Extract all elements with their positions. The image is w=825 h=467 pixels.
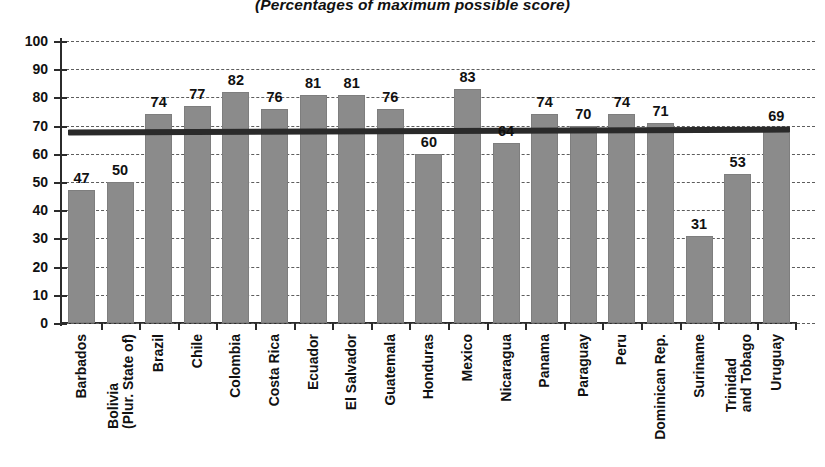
x-category-label: Panama (537, 334, 552, 388)
y-tick-label-40: 40 (4, 202, 48, 218)
bar-value-label: 76 (266, 89, 282, 105)
bar-value-label: 74 (151, 94, 167, 110)
x-category-label: Dominican Rep. (653, 334, 668, 440)
x-category-label: Costa Rica (267, 334, 282, 406)
y-tick-mark-80 (54, 97, 67, 99)
x-category-label: Honduras (421, 334, 436, 399)
x-category-label: Bolivia(Plur. State of) (106, 334, 136, 429)
bar (531, 114, 558, 323)
x-category-label-line: Costa Rica (267, 334, 282, 406)
x-tick-mark (602, 322, 604, 330)
bar (724, 174, 751, 323)
x-category-label: Chile (190, 334, 205, 368)
bar (763, 128, 790, 323)
bar (454, 89, 481, 323)
x-category-label-line: Mexico (460, 334, 475, 381)
bar-value-label: 81 (305, 75, 321, 91)
x-category-label: Nicaragua (499, 334, 514, 402)
x-tick-mark (255, 322, 257, 330)
x-category-label-line: Ecuador (306, 334, 321, 390)
y-tick-mark-30 (54, 238, 67, 240)
x-category-label-line: Bolivia (106, 334, 121, 429)
bar (608, 114, 635, 323)
x-category-label-line: Guatemala (383, 334, 398, 406)
gridline-80 (61, 97, 815, 98)
x-tick-mark (216, 322, 218, 330)
y-tick-mark-10 (54, 295, 67, 297)
y-tick-label-90: 90 (4, 61, 48, 77)
plot-area (61, 41, 815, 323)
x-category-label-line: Trinidad (724, 334, 739, 412)
y-axis-labels: 0102030405060708090100 (0, 41, 48, 323)
x-category-label-line: Uruguay (769, 334, 784, 391)
x-tick-mark (795, 322, 797, 330)
bar-value-label: 82 (228, 72, 244, 88)
bar-value-label: 60 (421, 134, 437, 150)
bar (107, 182, 134, 323)
x-tick-mark (178, 322, 180, 330)
x-category-label: El Salvador (344, 334, 359, 410)
x-category-label: Paraguay (576, 334, 591, 397)
x-category-label: Ecuador (306, 334, 321, 390)
x-category-label-line: Honduras (421, 334, 436, 399)
x-tick-mark (448, 322, 450, 330)
x-category-label-line: Colombia (228, 334, 243, 398)
bar-value-label: 31 (691, 216, 707, 232)
y-tick-label-0: 0 (4, 315, 48, 331)
bar-value-label: 76 (382, 89, 398, 105)
x-category-label-line: Panama (537, 334, 552, 388)
bar (145, 114, 172, 323)
y-tick-mark-50 (54, 182, 67, 184)
bar-value-label: 53 (730, 154, 746, 170)
x-tick-mark (525, 322, 527, 330)
y-tick-mark-0 (54, 323, 67, 325)
x-tick-mark (409, 322, 411, 330)
y-tick-label-10: 10 (4, 287, 48, 303)
x-tick-mark (757, 322, 759, 330)
y-tick-label-60: 60 (4, 146, 48, 162)
bar (570, 126, 597, 323)
x-category-label: Brazil (151, 334, 166, 372)
y-tick-label-50: 50 (4, 174, 48, 190)
y-tick-label-80: 80 (4, 89, 48, 105)
x-tick-mark (101, 322, 103, 330)
x-category-label-line: Chile (190, 334, 205, 368)
y-tick-mark-40 (54, 210, 67, 212)
x-category-label: Mexico (460, 334, 475, 381)
x-category-label-line: Suriname (692, 334, 707, 398)
bar-value-label: 74 (614, 94, 630, 110)
x-category-label-line: Brazil (151, 334, 166, 372)
bar (261, 109, 288, 323)
y-tick-mark-70 (54, 126, 67, 128)
bar (68, 190, 95, 323)
bar (493, 143, 520, 323)
bar-value-label: 70 (575, 106, 591, 122)
bar-value-label: 47 (73, 170, 89, 186)
x-category-label: Barbados (74, 334, 89, 399)
bar (647, 123, 674, 323)
x-category-label-line: Barbados (74, 334, 89, 399)
x-tick-mark (294, 322, 296, 330)
x-tick-mark (139, 322, 141, 330)
x-category-label-line: Paraguay (576, 334, 591, 397)
bar-value-label: 71 (652, 103, 668, 119)
x-category-label: Colombia (228, 334, 243, 398)
y-tick-mark-20 (54, 267, 67, 269)
bar (686, 236, 713, 323)
x-category-label: Trinidadand Tobago (724, 334, 754, 412)
gridline-0 (61, 323, 815, 324)
x-category-label: Peru (614, 334, 629, 365)
x-tick-mark (718, 322, 720, 330)
x-category-label-line: Dominican Rep. (653, 334, 668, 440)
bar-value-label: 64 (498, 123, 514, 139)
x-category-label-line: Peru (614, 334, 629, 365)
bar-value-label: 81 (344, 75, 360, 91)
y-tick-mark-90 (54, 69, 67, 71)
x-category-label-line: (Plur. State of) (121, 334, 136, 429)
bar-chart-figure: (Percentages of maximum possible score) … (0, 0, 825, 467)
x-tick-mark (680, 322, 682, 330)
x-category-label-line: El Salvador (344, 334, 359, 410)
y-tick-label-70: 70 (4, 118, 48, 134)
x-category-label-line: Nicaragua (499, 334, 514, 402)
y-tick-mark-60 (54, 154, 67, 156)
